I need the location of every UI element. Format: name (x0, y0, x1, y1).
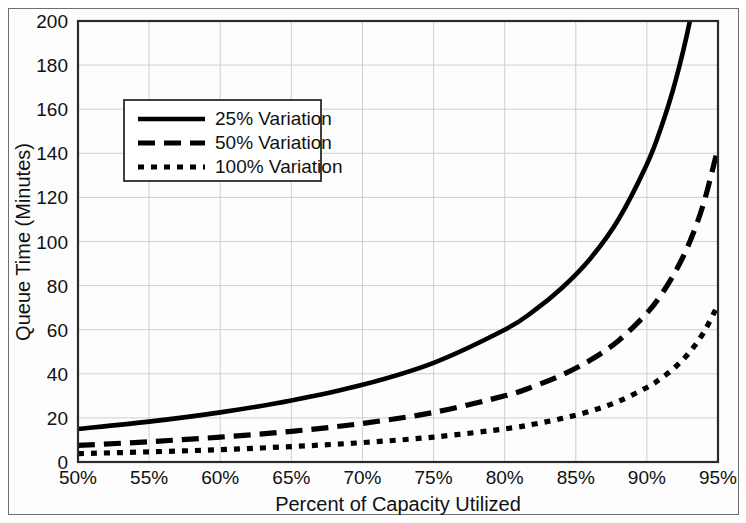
y-tick-label: 180 (36, 55, 68, 76)
x-tick-label: 80% (486, 467, 524, 488)
x-tick-label: 60% (201, 467, 239, 488)
x-tick-label: 65% (272, 467, 310, 488)
chart-figure: 020406080100120140160180200 50%55%60%65%… (0, 0, 746, 523)
legend-items: 25% Variation50% Variation100% Variation (138, 108, 342, 177)
y-tick-label: 140 (36, 143, 68, 164)
legend-label-2: 50% Variation (215, 132, 332, 153)
y-tick-label: 20 (47, 408, 68, 429)
y-axis-title: Queue Time (Minutes) (12, 143, 34, 341)
curve-100-variation (78, 305, 718, 454)
y-tick-label: 100 (36, 232, 68, 253)
x-tick-label: 85% (557, 467, 595, 488)
y-tick-label: 40 (47, 364, 68, 385)
legend-label-3: 100% Variation (215, 156, 342, 177)
legend-label-1: 25% Variation (215, 108, 332, 129)
chart-svg: 020406080100120140160180200 50%55%60%65%… (0, 0, 746, 523)
y-tick-label: 80 (47, 276, 68, 297)
curve-25-variation (78, 0, 718, 429)
x-tick-label: 75% (415, 467, 453, 488)
y-axis-tick-labels: 020406080100120140160180200 (36, 11, 68, 473)
x-axis-title: Percent of Capacity Utilized (275, 493, 521, 515)
x-tick-label: 90% (628, 467, 666, 488)
y-tick-label: 200 (36, 11, 68, 32)
x-tick-label: 95% (699, 467, 737, 488)
x-tick-label: 50% (59, 467, 97, 488)
x-axis-tick-labels: 50%55%60%65%70%75%80%85%90%95% (59, 467, 737, 488)
chart-legend: 25% Variation50% Variation100% Variation (124, 100, 342, 181)
y-tick-label: 160 (36, 99, 68, 120)
plot-area: 020406080100120140160180200 50%55%60%65%… (0, 0, 746, 523)
x-tick-label: 70% (343, 467, 381, 488)
data-curves (78, 0, 718, 454)
x-tick-label: 55% (130, 467, 168, 488)
y-tick-label: 60 (47, 320, 68, 341)
y-tick-label: 120 (36, 187, 68, 208)
